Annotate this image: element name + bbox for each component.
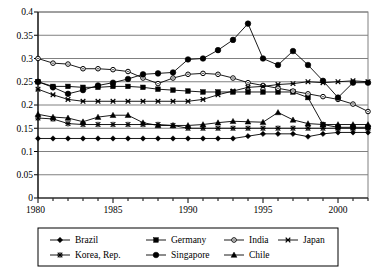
data-point: [261, 90, 266, 95]
data-point: [366, 109, 371, 114]
y-tick-label: 0.15: [16, 124, 33, 134]
x-tick-label: 1990: [179, 205, 198, 215]
legend-label: Korea, Rep.: [75, 250, 121, 260]
y-tick-label: 0.3: [21, 54, 33, 64]
data-point: [171, 76, 176, 81]
data-point: [125, 122, 131, 128]
data-point: [111, 67, 116, 72]
legend-marker-circle-open: [232, 238, 237, 243]
x-tick-label: 1985: [104, 205, 123, 215]
data-point: [245, 21, 251, 27]
x-tick-label: 1980: [26, 205, 45, 215]
data-point: [215, 47, 221, 53]
data-point: [275, 62, 281, 68]
data-point: [351, 102, 356, 107]
data-point: [170, 70, 176, 76]
data-point: [65, 121, 71, 127]
legend-label: Brazil: [75, 235, 99, 245]
line-chart: 00.050.10.150.20.250.30.350.4 1980198519…: [0, 0, 378, 270]
data-point: [126, 69, 131, 74]
data-point: [365, 80, 371, 86]
data-point: [201, 71, 206, 76]
x-tick-label: 1995: [254, 205, 273, 215]
data-point: [290, 48, 296, 54]
data-point: [215, 125, 221, 131]
data-point: [81, 66, 86, 71]
data-point: [95, 83, 101, 89]
data-point: [200, 56, 206, 62]
data-point: [95, 122, 101, 128]
data-point: [230, 125, 236, 131]
data-point: [171, 88, 176, 93]
data-point: [216, 72, 221, 77]
y-tick-label: 0.1: [21, 147, 33, 157]
data-point: [140, 72, 146, 78]
chart-legend: BrazilGermanyIndiaJapanKorea, Rep.Singap…: [38, 228, 338, 266]
data-point: [36, 56, 41, 61]
y-tick-label: 0.4: [21, 7, 33, 17]
data-point: [290, 125, 296, 131]
data-point: [306, 92, 311, 97]
data-point: [305, 62, 311, 68]
data-point: [260, 125, 266, 131]
legend-marker-circle-filled: [153, 252, 159, 258]
data-point: [80, 87, 86, 93]
data-point: [110, 80, 116, 86]
data-point: [65, 91, 71, 97]
data-point: [275, 125, 281, 131]
data-point: [186, 89, 191, 94]
legend-marker-square: [154, 238, 159, 243]
data-point: [125, 76, 131, 82]
data-point: [350, 80, 356, 86]
data-point: [291, 89, 296, 94]
legend-label: Germany: [171, 235, 207, 245]
y-tick-label: 0.2: [21, 100, 33, 110]
chart-canvas: 00.050.10.150.20.250.30.350.4 1980198519…: [0, 0, 378, 270]
legend-label: India: [249, 235, 269, 245]
data-point: [186, 72, 191, 77]
data-point: [110, 122, 116, 128]
data-point: [335, 95, 341, 101]
data-point: [96, 66, 101, 71]
data-point: [231, 76, 236, 81]
x-tick-label: 2000: [329, 205, 348, 215]
legend-marker-star: [57, 252, 63, 258]
data-point: [141, 85, 146, 90]
data-point: [246, 90, 251, 95]
y-tick-label: 0.05: [16, 170, 33, 180]
data-point: [156, 87, 161, 92]
y-tick-label: 0.35: [16, 31, 33, 41]
data-point: [245, 125, 251, 131]
data-point: [66, 84, 71, 89]
y-tick-label: 0: [28, 193, 33, 203]
data-point: [230, 37, 236, 43]
data-point: [35, 79, 41, 85]
data-point: [66, 62, 71, 67]
data-point: [246, 80, 251, 85]
data-point: [185, 57, 191, 63]
data-point: [320, 78, 326, 84]
legend-label: Japan: [303, 235, 325, 245]
data-point: [156, 81, 161, 86]
data-point: [50, 85, 56, 91]
legend-label: Singapore: [171, 250, 210, 260]
data-point: [260, 56, 266, 62]
data-point: [201, 90, 206, 95]
data-point: [51, 61, 56, 66]
data-point: [305, 125, 311, 131]
legend-label: Chile: [249, 250, 270, 260]
data-point: [126, 84, 131, 89]
data-point: [155, 71, 161, 77]
data-point: [321, 94, 326, 99]
y-tick-label: 0.25: [16, 77, 33, 87]
